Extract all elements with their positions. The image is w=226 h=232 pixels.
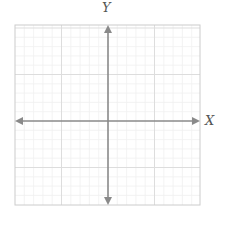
x-axis-negative-arrow-icon <box>15 117 23 125</box>
x-axis-positive-arrow-icon <box>192 117 200 125</box>
y-axis-label: Y <box>102 1 111 14</box>
y-axis-negative-arrow-icon <box>104 197 112 205</box>
x-axis-label: X <box>205 114 214 127</box>
coordinate-plane <box>0 0 226 232</box>
y-axis-positive-arrow-icon <box>104 25 112 33</box>
